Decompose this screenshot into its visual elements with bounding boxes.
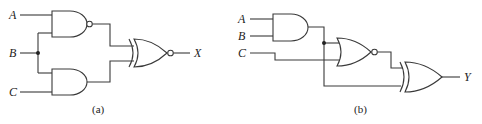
wire-nand-to-xnor xyxy=(93,24,135,46)
label-b-input-c: C xyxy=(238,47,246,59)
circuit-b xyxy=(250,14,460,92)
wire-nor-to-xor xyxy=(378,52,404,68)
caption-b: (b) xyxy=(354,104,367,115)
xnor-gate xyxy=(134,39,167,67)
junction-dot-b xyxy=(322,41,326,45)
label-input-b: B xyxy=(9,47,16,59)
label-output-y: Y xyxy=(464,71,471,83)
wire-b-input-c xyxy=(250,53,341,60)
label-input-a: A xyxy=(9,9,16,21)
and-gate xyxy=(52,69,87,95)
xnor-bubble xyxy=(168,50,174,56)
xor-extra-arc xyxy=(400,62,404,92)
nand-gate xyxy=(52,11,87,37)
wire-and-to-xnor xyxy=(87,61,134,82)
label-output-x: X xyxy=(194,47,201,59)
label-b-input-a: A xyxy=(238,13,245,25)
caption-a: (a) xyxy=(92,104,104,115)
xnor-extra-arc xyxy=(129,39,133,67)
nand-bubble xyxy=(87,21,93,27)
label-input-c: C xyxy=(9,86,17,98)
nor-gate xyxy=(337,38,371,66)
label-b-input-b: B xyxy=(238,30,245,42)
nor-bubble xyxy=(372,49,378,55)
circuit-a xyxy=(20,11,190,95)
xor-gate xyxy=(405,62,442,92)
and-gate-b xyxy=(273,14,308,41)
junction-dot xyxy=(36,51,40,55)
